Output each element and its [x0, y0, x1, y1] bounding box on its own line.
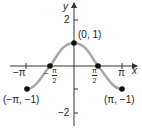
- x-tick-half-pi: π2: [92, 67, 97, 84]
- x-tick-neg-pi: −π: [13, 68, 26, 78]
- x-axis-label: x: [132, 66, 137, 76]
- neg-sign: −: [44, 70, 49, 78]
- point-label-pi: (π, −1): [104, 95, 135, 105]
- y-tick-neg-2: −2: [58, 108, 69, 118]
- cosine-chart: [0, 0, 142, 129]
- point-neg-pi: [24, 86, 30, 92]
- x-tick-neg-half-pi: π2: [52, 67, 57, 84]
- point-label-zero: (0, 1): [78, 30, 101, 40]
- point-pi: [119, 86, 125, 92]
- x-tick-pi: π: [118, 68, 125, 78]
- point-label-neg-pi: (−π, −1): [3, 95, 39, 105]
- y-axis-label: y: [63, 2, 68, 12]
- y-tick-2: 2: [64, 15, 70, 25]
- point-zero: [71, 40, 77, 46]
